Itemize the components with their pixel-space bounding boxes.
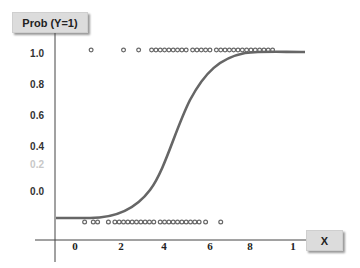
data-point (176, 48, 180, 52)
data-point (122, 48, 126, 52)
data-point (180, 220, 184, 224)
data-point (184, 220, 188, 224)
data-point (158, 48, 162, 52)
points-y0 (83, 220, 223, 224)
data-point (135, 220, 139, 224)
data-point (208, 48, 212, 52)
data-point (171, 220, 175, 224)
data-point (199, 48, 203, 52)
data-point (184, 48, 188, 52)
plot-area (0, 0, 360, 268)
data-point (96, 220, 100, 224)
data-point (204, 48, 208, 52)
data-point (240, 48, 244, 52)
data-point (223, 48, 227, 52)
data-point (122, 220, 126, 224)
data-point (154, 48, 158, 52)
data-point (167, 48, 171, 52)
data-point (249, 48, 253, 52)
data-point (83, 220, 87, 224)
data-point (107, 220, 111, 224)
data-point (113, 220, 117, 224)
data-point (258, 48, 262, 52)
data-point (193, 220, 197, 224)
data-point (232, 48, 236, 52)
data-point (197, 220, 201, 224)
data-point (204, 220, 208, 224)
data-point (117, 220, 121, 224)
data-point (195, 48, 199, 52)
data-point (180, 48, 184, 52)
data-point (158, 220, 162, 224)
data-point (236, 48, 240, 52)
data-point (163, 220, 167, 224)
data-point (271, 48, 275, 52)
data-point (91, 220, 95, 224)
data-point (191, 48, 195, 52)
data-point (227, 48, 231, 52)
data-point (150, 48, 154, 52)
data-point (262, 48, 266, 52)
data-point (139, 220, 143, 224)
data-point (171, 48, 175, 52)
data-point (137, 48, 141, 52)
data-point (253, 48, 257, 52)
data-point (167, 220, 171, 224)
data-point (176, 220, 180, 224)
data-point (152, 220, 156, 224)
data-point (266, 48, 270, 52)
data-point (163, 48, 167, 52)
data-point (126, 220, 130, 224)
logistic-curve (56, 52, 305, 218)
data-point (215, 48, 219, 52)
data-point (130, 220, 134, 224)
data-point (245, 48, 249, 52)
data-point (219, 220, 223, 224)
points-y1 (89, 48, 274, 52)
data-point (219, 48, 223, 52)
data-point (189, 220, 193, 224)
data-point (89, 48, 93, 52)
data-point (143, 220, 147, 224)
data-point (148, 220, 152, 224)
